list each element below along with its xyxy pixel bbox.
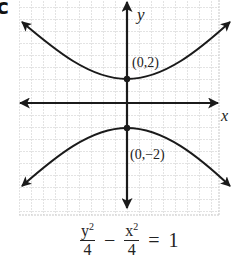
point-label-bottom: (0,−2) xyxy=(130,147,165,163)
grid xyxy=(19,0,219,215)
minus-operator: − xyxy=(104,229,115,252)
vertex-bottom-point xyxy=(124,125,130,131)
equation: y2 4 − x2 4 = 1 xyxy=(80,222,179,258)
fraction-x-term: x2 4 xyxy=(124,222,139,258)
hyperbola-figure: c y x (0,2) (0,−2) y2 4 xyxy=(0,0,234,267)
equals-sign: = xyxy=(148,229,159,252)
vertex-top-point xyxy=(124,76,130,82)
x-axis-label: x xyxy=(220,107,228,124)
y-axis-label: y xyxy=(135,5,145,24)
point-label-top: (0,2) xyxy=(132,55,159,71)
equation-rhs: 1 xyxy=(169,229,179,252)
fraction-y-term: y2 4 xyxy=(80,222,95,258)
